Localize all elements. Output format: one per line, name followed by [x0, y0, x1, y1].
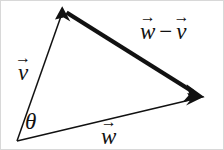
vector-v-label: v →: [18, 61, 28, 84]
w-minus-v-first-symbol: w →: [140, 20, 155, 43]
vector-w-minus-v-label: w → − v →: [140, 20, 187, 43]
vector-diagram-figure: v → θ w → w → − v →: [0, 0, 224, 150]
vector-w-symbol: w: [101, 125, 116, 148]
theta-angle-label: θ: [25, 110, 36, 133]
w-minus-v-second-letter: v: [176, 19, 186, 44]
w-minus-v-second-symbol: v →: [176, 20, 186, 43]
vector-w-label: w →: [101, 125, 116, 148]
vector-v-symbol: v: [18, 61, 28, 84]
w-minus-v-first-letter: w: [140, 19, 155, 44]
minus-operator: −: [155, 19, 176, 44]
